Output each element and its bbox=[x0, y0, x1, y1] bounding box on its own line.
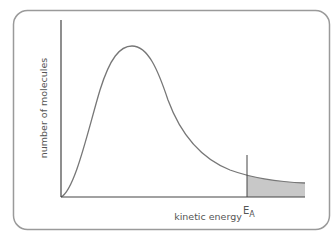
y-axis-label: number of molecules bbox=[38, 58, 49, 159]
x-axis-label: kinetic energy bbox=[174, 211, 242, 222]
ea-subscript: A bbox=[249, 210, 255, 219]
chart: kinetic energy EA number of molecules bbox=[0, 0, 336, 241]
